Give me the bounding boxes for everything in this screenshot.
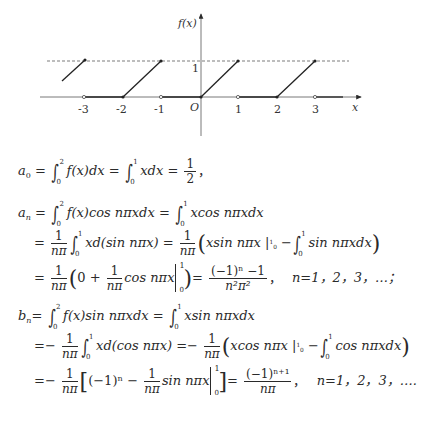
fraction: 1nπ xyxy=(51,265,67,292)
lower-limit: 0 xyxy=(53,324,57,331)
lhs-sub: n xyxy=(26,316,31,325)
fraction: (−1)ⁿ⁺¹nπ xyxy=(244,368,291,395)
upper-limit: 1 xyxy=(214,365,219,373)
fraction: 1nπ xyxy=(204,333,220,360)
term: xsin nπx xyxy=(206,235,261,250)
upper-limit: 2 xyxy=(56,304,60,311)
denominator: nπ xyxy=(107,279,123,292)
punctuation: ， xyxy=(198,163,211,178)
lower-limit: 0 xyxy=(86,354,90,361)
lhs-sub: 0 xyxy=(26,171,31,180)
denominator: n²π² xyxy=(209,279,267,292)
integrand: xdx xyxy=(140,163,163,178)
lower-limit: 0 xyxy=(214,390,218,397)
lower-limit: 0 xyxy=(180,221,184,228)
term: xcos nπx xyxy=(230,338,288,353)
denominator: nπ xyxy=(62,382,78,395)
lhs: a xyxy=(18,205,26,220)
denominator: nπ xyxy=(204,347,220,360)
lower-limit: 0 xyxy=(75,251,79,258)
fraction: 1nπ xyxy=(62,333,78,360)
eval-bar: 10 xyxy=(175,264,176,292)
denominator: nπ xyxy=(62,347,78,360)
integrand: xcos nπxdx xyxy=(191,205,264,220)
x-tick-label: -2 xyxy=(116,103,127,116)
integrand: xd(sin nπx) xyxy=(85,235,158,250)
numerator: 1 xyxy=(107,265,123,279)
equation-bn-line1: bn= ∫20 f(x)sin nπxdx = ∫10 xsin nπxdx xyxy=(18,307,255,327)
integrand: xd(cos nπx) xyxy=(96,338,172,353)
numerator: 1 xyxy=(144,368,160,382)
term: 0 + xyxy=(77,270,100,285)
lower-limit: 0 xyxy=(56,179,60,186)
function-graph: f(x) x O 1 -3 -2 -1 1 2 3 xyxy=(0,0,427,145)
denominator: nπ xyxy=(51,244,67,257)
lhs-sub: n xyxy=(26,213,31,222)
equation-bn-line3: =− 1nπ[(−1)ⁿ − 1nπsin nπx10]= (−1)ⁿ⁺¹nπ，… xyxy=(34,367,417,395)
denominator: nπ xyxy=(51,279,67,292)
graph-segments xyxy=(62,60,343,97)
upper-limit: 1 xyxy=(179,262,184,270)
fraction: 1nπ xyxy=(62,368,78,395)
integrand: f(x)dx xyxy=(67,163,105,178)
equation-an-line1: an = ∫20 f(x)cos nπxdx = ∫10 xcos nπxdx xyxy=(18,204,264,224)
numerator: 1 xyxy=(184,158,196,172)
y-tick-1: 1 xyxy=(192,62,199,75)
equation-a0: a0 = ∫20 f(x)dx = ∫10 xdx = 12， xyxy=(18,158,211,185)
integrand: cos nπxdx xyxy=(335,338,401,353)
upper-limit: 1 xyxy=(78,231,82,238)
upper-limit: 1 xyxy=(301,231,305,238)
fraction: (−1)ⁿ −1n²π² xyxy=(209,265,267,292)
origin-label: O xyxy=(190,101,199,114)
upper-limit: 2 xyxy=(60,201,64,208)
upper-limit: 2 xyxy=(59,159,63,166)
term: sin nπx xyxy=(162,373,210,388)
integrand: f(x)cos nπxdx xyxy=(67,205,155,220)
upper-limit: 1 xyxy=(177,304,181,311)
x-tick-label: 2 xyxy=(274,103,281,116)
denominator: nπ xyxy=(244,382,291,395)
denominator: nπ xyxy=(180,244,196,257)
equation-an-line3: = 1nπ(0 + 1nπcos nπx10)= (−1)ⁿ −1n²π²， n… xyxy=(34,264,401,292)
range: n=1，2，3，…. xyxy=(317,373,417,388)
fraction: 1nπ xyxy=(51,230,67,257)
numerator: 1 xyxy=(51,265,67,279)
eval-bar: 10 xyxy=(210,367,211,395)
fraction: 1nπ xyxy=(180,230,196,257)
numerator: 1 xyxy=(62,368,78,382)
x-tick-label: -1 xyxy=(154,103,165,116)
integrand: sin nπxdx xyxy=(308,235,371,250)
lower-limit: 0 xyxy=(298,251,302,258)
numerator: (−1)ⁿ −1 xyxy=(209,265,267,279)
x-tick-label: 1 xyxy=(235,103,242,116)
term: (−1)ⁿ − xyxy=(88,373,138,388)
lower-limit: 0 xyxy=(130,179,134,186)
upper-limit: 1 xyxy=(89,334,93,341)
numerator: 1 xyxy=(51,230,67,244)
x-tick-label: -3 xyxy=(78,103,89,116)
upper-limit: 1 xyxy=(183,201,187,208)
fraction: 1nπ xyxy=(144,368,160,395)
range: n=1，2，3，…； xyxy=(292,270,401,285)
lower-limit: 0 xyxy=(300,347,304,353)
term: cos nπx xyxy=(124,270,174,285)
x-axis-label: x xyxy=(352,101,359,114)
equation-bn-line2: =− 1nπ∫10 xd(cos nπx) =− 1nπ(xcos nπx |1… xyxy=(34,333,410,360)
upper-limit: 1 xyxy=(328,334,332,341)
lower-limit: 0 xyxy=(174,324,178,331)
numerator: 1 xyxy=(204,333,220,347)
numerator: 1 xyxy=(62,333,78,347)
fraction: 1nπ xyxy=(107,265,123,292)
equation-an-line2: = 1nπ∫10 xd(sin nπx) = 1nπ(xsin nπx |10 … xyxy=(34,230,380,257)
x-tick-label: 3 xyxy=(312,103,319,116)
integrand: f(x)sin nπxdx xyxy=(63,308,149,323)
denominator: nπ xyxy=(144,382,160,395)
integrand: xsin nπxdx xyxy=(184,308,255,323)
numerator: 1 xyxy=(180,230,196,244)
lower-limit: 0 xyxy=(179,287,183,294)
fraction: 12 xyxy=(184,158,196,185)
lhs: a xyxy=(18,163,26,178)
numerator: (−1)ⁿ⁺¹ xyxy=(244,368,291,382)
upper-limit: 1 xyxy=(133,159,137,166)
lower-limit: 0 xyxy=(325,354,329,361)
